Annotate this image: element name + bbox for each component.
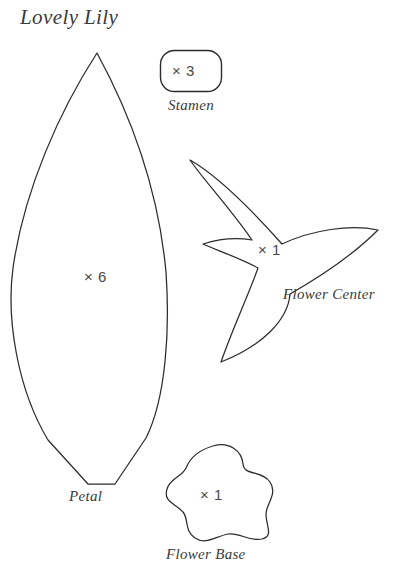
stamen-quantity: × 3 <box>172 62 195 79</box>
stamen-label: Stamen <box>168 97 214 114</box>
flower-center-label: Flower Center <box>283 286 375 303</box>
flower-base-quantity: × 1 <box>200 486 223 503</box>
pattern-template-sheet: Lovely Lily × 6 × 3 × 1 × 1 Petal Stamen… <box>0 0 397 574</box>
petal-label: Petal <box>69 488 102 505</box>
flower-center-quantity: × 1 <box>258 241 281 258</box>
flower-base-label: Flower Base <box>166 546 246 563</box>
flower-center-outline <box>190 160 378 362</box>
petal-quantity: × 6 <box>84 268 107 285</box>
